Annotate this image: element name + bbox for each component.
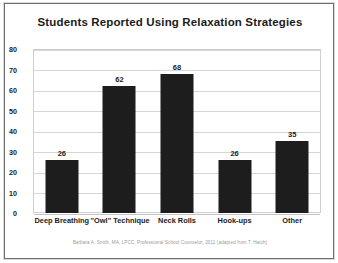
y-axis-tick-label: 0 — [0, 209, 17, 218]
bar[interactable] — [218, 160, 251, 213]
bar-group: 62 — [91, 49, 149, 213]
bar-value-label: 68 — [173, 63, 181, 72]
y-axis-tick-label: 80 — [0, 45, 17, 54]
x-axis-category-label: Deep Breathing — [33, 216, 91, 225]
x-axis-category-label: Other — [263, 216, 321, 225]
bar[interactable] — [160, 74, 193, 213]
y-axis-tick-label: 60 — [0, 86, 17, 95]
bar-value-label: 62 — [115, 75, 123, 84]
y-axis-tick-label: 10 — [0, 188, 17, 197]
bars-layer: 2662682635 — [33, 49, 321, 213]
bar-group: 68 — [148, 49, 206, 213]
bar-group: 26 — [33, 49, 91, 213]
attribution-note: Barbara A. Smith, MA, LPCC, Professional… — [5, 240, 335, 245]
x-axis-category-label: Neck Rolls — [148, 216, 206, 225]
x-axis-category-label: Hook-ups — [206, 216, 264, 225]
bar-value-label: 26 — [230, 149, 238, 158]
y-axis-tick-label: 40 — [0, 127, 17, 136]
bar-group: 26 — [206, 49, 264, 213]
chart-title: Students Reported Using Relaxation Strat… — [5, 16, 335, 28]
y-axis-tick-label: 30 — [0, 147, 17, 156]
x-axis: Deep Breathing"Owl" TechniqueNeck RollsH… — [33, 216, 321, 230]
bar[interactable] — [276, 141, 309, 213]
chart-figure-frame: Students Reported Using Relaxation Strat… — [4, 3, 334, 259]
y-axis-tick-label: 50 — [0, 106, 17, 115]
y-axis-tick-label: 20 — [0, 168, 17, 177]
bar-group: 35 — [263, 49, 321, 213]
y-axis-tick-label: 70 — [0, 65, 17, 74]
gridline — [34, 214, 320, 215]
bar[interactable] — [103, 86, 136, 213]
bar-value-label: 26 — [58, 149, 66, 158]
bar-value-label: 35 — [288, 130, 296, 139]
x-axis-category-label: "Owl" Technique — [91, 216, 149, 225]
bar[interactable] — [45, 160, 78, 213]
